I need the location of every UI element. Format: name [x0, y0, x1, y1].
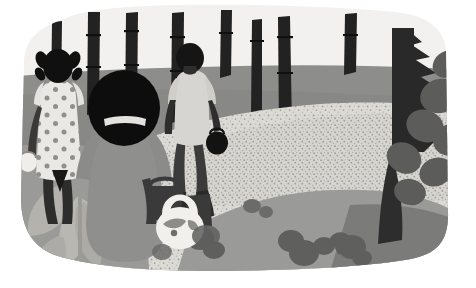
trunk-6: [251, 19, 262, 113]
boy-neck: [183, 66, 197, 75]
illustration-stage: Children Gathering in a Forest Clearing …: [0, 0, 476, 288]
scene-body: [0, 0, 476, 288]
forest-scene-illustration: [0, 0, 476, 288]
boy-pail: [206, 132, 228, 155]
boy-shirt: [174, 70, 210, 146]
trunk-5: [220, 10, 232, 78]
polka-dot-dress: [36, 80, 82, 181]
central-figure-hair: [88, 70, 160, 146]
trunk-8: [344, 13, 357, 75]
